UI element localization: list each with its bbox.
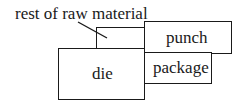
rest-of-raw-material-label: rest of raw material	[15, 5, 148, 22]
